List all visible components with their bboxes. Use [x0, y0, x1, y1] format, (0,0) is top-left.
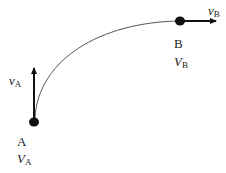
trajectory-diagram — [0, 0, 226, 173]
trajectory-curve — [35, 21, 180, 118]
vector-a-label: vA — [9, 74, 21, 89]
point-b-quantity: VB — [174, 55, 188, 70]
point-a-label: A — [17, 135, 26, 148]
point-a-dot — [29, 118, 39, 127]
point-a-quantity: VA — [17, 152, 31, 167]
vector-b-label: vB — [208, 4, 220, 19]
point-b-dot — [175, 17, 185, 26]
point-b-label: B — [174, 37, 183, 50]
